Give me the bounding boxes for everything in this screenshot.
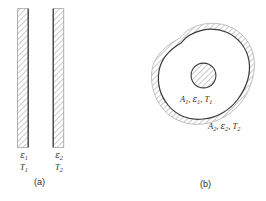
plate-right: [53, 9, 64, 148]
plate-right-emissivity: ε2: [55, 150, 63, 160]
figure-radiation-surface-configurations: ε1 T1 ε2 T2 A1, ε1, T1 A2, ε2, T2 (a) (b…: [0, 0, 266, 201]
enclosed-body-circle: [191, 63, 216, 88]
plate-left-label: ε1 T1: [13, 151, 35, 172]
plate-left-emissivity: ε1: [20, 150, 28, 160]
plate-right-temperature: T2: [48, 163, 70, 172]
plate-left-temperature: T1: [13, 163, 35, 172]
caption-panel-a: (a): [34, 178, 45, 187]
plate-left: [18, 9, 29, 148]
plate-right-label: ε2 T2: [48, 151, 70, 172]
panel-a-plates: [18, 9, 64, 148]
enclosed-body-label: A1, ε1, T1: [180, 95, 212, 104]
figure-drawing-canvas: [0, 0, 266, 201]
enclosure-label: A2, ε2, T2: [208, 122, 240, 131]
panel-b-enclosure: [151, 23, 254, 124]
caption-panel-b: (b): [200, 180, 211, 189]
plate-left-hatch: [18, 9, 29, 148]
plate-right-hatch: [53, 9, 64, 148]
